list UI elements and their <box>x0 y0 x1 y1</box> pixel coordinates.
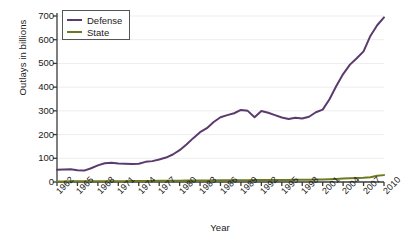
legend-swatch-state <box>67 31 82 34</box>
series-line-defense <box>57 17 384 170</box>
legend-label-defense: Defense <box>87 15 122 26</box>
chart-legend: Defense State <box>62 10 130 40</box>
y-tick-label: 200 <box>24 130 54 140</box>
y-tick-label: 700 <box>24 11 54 21</box>
y-tick-label: 400 <box>24 82 54 92</box>
legend-item-defense: Defense <box>67 14 125 26</box>
y-tick-label: 100 <box>24 153 54 163</box>
y-tick-label: 0 <box>24 177 54 187</box>
y-tick-label: 500 <box>24 58 54 68</box>
y-tick-label: 600 <box>24 35 54 45</box>
legend-item-state: State <box>67 26 125 38</box>
x-axis-title: Year <box>56 222 384 233</box>
legend-swatch-defense <box>67 19 82 22</box>
y-tick-label: 300 <box>24 106 54 116</box>
legend-label-state: State <box>87 27 109 38</box>
